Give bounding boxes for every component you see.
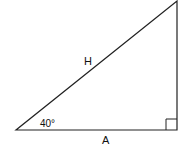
triangle-diagram: H 40° A xyxy=(0,0,188,150)
right-angle-marker xyxy=(166,119,177,130)
adjacent-label: A xyxy=(102,134,110,146)
hypotenuse-label: H xyxy=(84,55,92,67)
angle-label: 40° xyxy=(40,118,55,129)
triangle xyxy=(16,1,177,130)
